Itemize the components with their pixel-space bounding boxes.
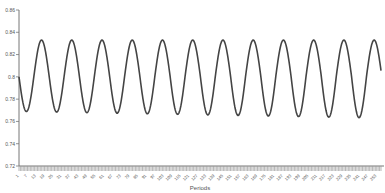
y-tick-label: 0.8 — [8, 74, 15, 80]
series-line — [19, 40, 381, 118]
x-tick-label: 247 — [360, 173, 369, 182]
x-tick-label: 217 — [318, 173, 327, 182]
line-chart: 0.860.840.820.80.780.760.740.72 17131925… — [0, 0, 385, 193]
x-tick-label: 91 — [141, 173, 148, 180]
x-tick-label: 67 — [107, 173, 114, 180]
y-tick-label: 0.76 — [5, 118, 15, 124]
x-tick-label: 37 — [64, 173, 71, 180]
x-tick-label: 241 — [352, 173, 361, 182]
x-tick-label: 1 — [15, 173, 21, 179]
x-tick-label: 223 — [326, 173, 335, 182]
x-tick-label: 163 — [241, 173, 250, 182]
x-tick-label: 139 — [207, 173, 216, 182]
x-tick-label: 73 — [115, 173, 122, 180]
x-tick-label: 121 — [182, 173, 191, 182]
x-tick-label: 151 — [224, 173, 233, 182]
x-tick-label: 235 — [343, 173, 352, 182]
x-tick-label: 115 — [173, 173, 182, 182]
y-tick-label: 0.84 — [5, 29, 15, 35]
x-tick-label: 43 — [72, 173, 79, 180]
x-tick-label: 175 — [258, 173, 267, 182]
x-tick-label: 193 — [284, 173, 293, 182]
x-tick-label: 181 — [267, 173, 276, 182]
x-tick-label: 109 — [165, 173, 174, 182]
x-tick-label: 169 — [250, 173, 259, 182]
x-tick-label: 133 — [199, 173, 208, 182]
y-tick-label: 0.74 — [5, 141, 15, 147]
x-tick-label: 49 — [81, 173, 88, 180]
x-tick-label: 79 — [124, 173, 131, 180]
x-axis-label: Periods — [190, 185, 210, 191]
x-tick-label: 97 — [149, 173, 156, 180]
x-tick-label: 253 — [369, 173, 378, 182]
y-tick-label: 0.78 — [5, 96, 15, 102]
x-tick-label: 31 — [55, 173, 62, 180]
x-tick-label: 19 — [38, 173, 45, 180]
x-tick-label: 157 — [233, 173, 242, 182]
x-tick-label: 55 — [90, 173, 97, 180]
y-axis: 0.860.840.820.80.780.760.740.72 — [5, 7, 19, 169]
x-tick-label: 85 — [132, 173, 139, 180]
y-tick-label: 0.72 — [5, 163, 15, 169]
x-tick-label: 211 — [310, 173, 319, 182]
x-tick-label: 145 — [216, 173, 225, 182]
x-tick-label: 7 — [23, 173, 29, 179]
x-tick-label: 25 — [47, 173, 54, 180]
x-tick-label: 61 — [98, 173, 105, 180]
y-tick-label: 0.86 — [5, 7, 15, 13]
x-tick-label: 229 — [335, 173, 344, 182]
x-tick-label: 103 — [156, 173, 165, 182]
x-tick-label: 199 — [292, 173, 301, 182]
x-tick-label: 187 — [275, 173, 284, 182]
chart-canvas: 0.860.840.820.80.780.760.740.72 17131925… — [0, 0, 385, 193]
x-axis: 1713192531374349556167737985919710310911… — [15, 166, 384, 182]
x-tick-label: 13 — [30, 173, 37, 180]
y-tick-label: 0.82 — [5, 51, 15, 57]
x-tick-label: 205 — [301, 173, 310, 182]
x-tick-label: 127 — [190, 173, 199, 182]
